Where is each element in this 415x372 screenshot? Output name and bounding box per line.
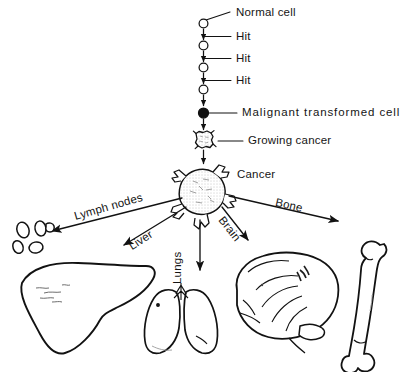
figure-artwork [0,0,415,372]
hit-stage-2-marker [199,63,208,72]
label-growing-cancer: Growing cancer [248,134,331,146]
bone-illustration [341,241,386,372]
normal-cell-leader [206,12,230,20]
normal-cell-marker [199,19,208,28]
hit-stage-3-marker [199,85,208,94]
label-hit-3: Hit [236,74,251,86]
label-malignant-transformed-cell: Malignant transformed cell [242,106,400,118]
liver-illustration [21,263,155,354]
malignant-cell-marker [199,108,209,118]
label-hit-1: Hit [236,30,251,42]
label-cancer: Cancer [237,168,275,180]
label-hit-2: Hit [236,52,251,64]
label-lungs: Lungs [171,252,183,284]
lymph-nodes-illustration [11,220,54,255]
lungs-illustration [144,283,217,353]
growing-cancer-mass [193,131,216,149]
brain-illustration [237,253,339,353]
label-normal-cell: Normal cell [236,6,296,18]
hit-stage-1-marker [199,41,208,50]
cancer-metastasis-figure: Normal cell Hit Hit Hit Malignant transf… [0,0,415,372]
